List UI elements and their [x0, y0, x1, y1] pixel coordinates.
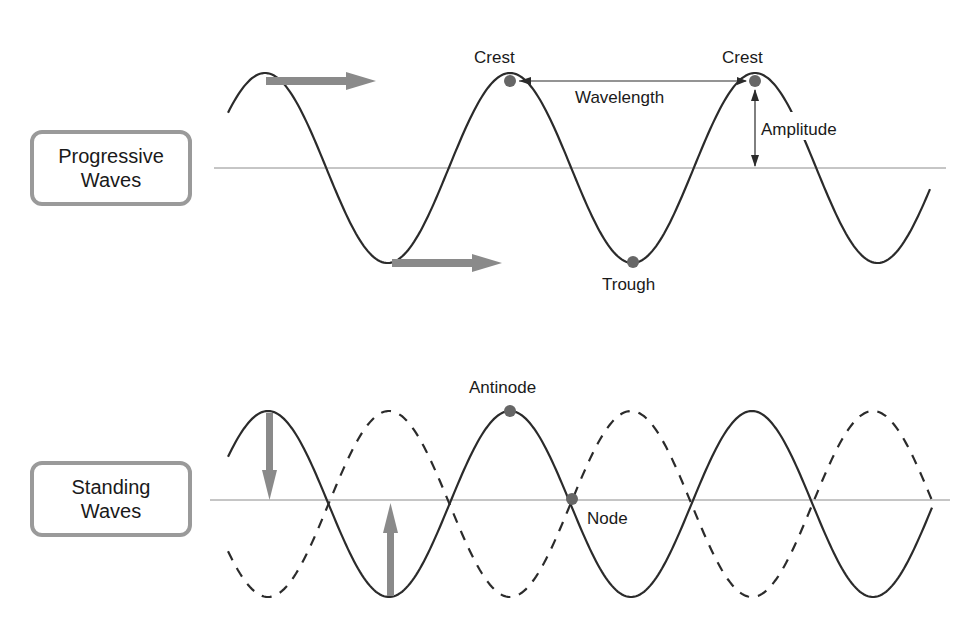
antinode-marker [504, 405, 516, 417]
amplitude-label: Amplitude [761, 120, 837, 139]
trough-marker [627, 256, 639, 268]
motion-arrow-top [266, 72, 376, 90]
crest-label-2: Crest [722, 48, 763, 67]
crest-marker-1 [504, 75, 516, 87]
wavelength-label: Wavelength [575, 88, 664, 107]
node-marker [566, 493, 578, 505]
crest-label-1: Crest [474, 48, 515, 67]
standing-wave-dashed [228, 411, 932, 597]
displacement-arrow-down [262, 413, 277, 500]
node-label: Node [587, 509, 628, 528]
amplitude-arrowhead-down-icon [751, 155, 759, 167]
crest-marker-2 [749, 75, 761, 87]
wave-diagram: Crest Crest Wavelength Amplitude Trough … [0, 0, 971, 621]
motion-arrow-bottom [392, 254, 502, 272]
trough-label: Trough [602, 275, 655, 294]
antinode-label: Antinode [469, 378, 536, 397]
displacement-arrow-up [383, 503, 398, 596]
standing-wave-solid [228, 411, 932, 597]
amplitude-arrowhead-up-icon [751, 89, 759, 101]
wavelength-arrowhead-left-icon [519, 77, 531, 85]
